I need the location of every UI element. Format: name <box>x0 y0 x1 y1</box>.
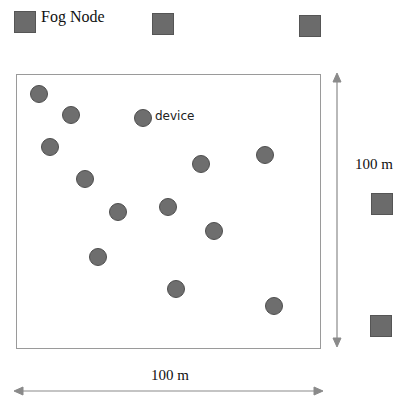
vertical-arrow-icon <box>333 73 341 347</box>
dimension-arrows <box>0 0 406 411</box>
height-dimension-label: 100 m <box>355 156 393 173</box>
horizontal-arrow-icon <box>14 387 323 395</box>
width-dimension-label: 100 m <box>151 367 189 384</box>
